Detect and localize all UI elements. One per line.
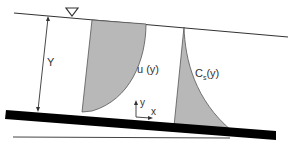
reference-line bbox=[13, 137, 230, 138]
depth-label: Y bbox=[47, 56, 54, 68]
axis-y-label: y bbox=[140, 97, 145, 108]
water-surface-icon bbox=[66, 8, 78, 16]
concentration-label: Cs(y) bbox=[195, 67, 219, 81]
velocity-label: u (y) bbox=[137, 63, 159, 75]
depth-arrow-bottom-icon bbox=[36, 107, 40, 112]
depth-arrow-top-icon bbox=[46, 16, 50, 21]
axis-x-line bbox=[136, 117, 150, 118]
concentration-label-arg: (y) bbox=[206, 67, 219, 79]
axis-x-label: x bbox=[151, 106, 156, 117]
channel-bed bbox=[5, 110, 276, 140]
water-surface-line bbox=[14, 13, 288, 37]
concentration-label-main: C bbox=[195, 67, 203, 79]
axis-y-arrow-icon bbox=[134, 100, 138, 105]
